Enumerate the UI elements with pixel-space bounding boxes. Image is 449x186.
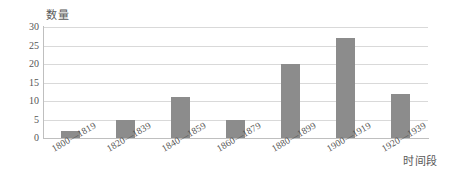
x-axis-title: 时间段: [403, 152, 438, 168]
bar-chart: 数量 051015202530 1800—18191820—18391840—1…: [0, 0, 449, 186]
y-axis-tick-label: 20: [13, 59, 39, 69]
y-axis-tick-label: 0: [13, 133, 39, 143]
bar-series: [43, 27, 428, 138]
y-axis-line: [43, 26, 44, 139]
y-axis-tick-labels: 051015202530: [8, 27, 39, 138]
y-axis-tick-label: 10: [13, 96, 39, 106]
y-axis-tick-label: 15: [13, 78, 39, 88]
y-axis-tick-label: 25: [13, 41, 39, 51]
x-axis-tick-labels: 1800—18191820—18391840—18591860—18791880…: [43, 139, 429, 186]
y-axis-tick-label: 5: [13, 115, 39, 125]
y-axis-tick-label: 30: [13, 22, 39, 32]
plot-area: [43, 27, 428, 138]
y-axis-title: 数量: [46, 6, 69, 22]
bar: [336, 38, 355, 138]
bar: [281, 64, 300, 138]
